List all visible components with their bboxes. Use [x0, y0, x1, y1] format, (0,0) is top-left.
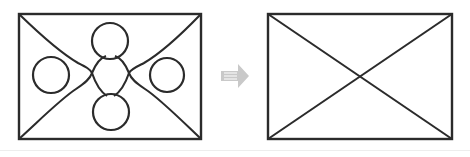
left-circle: [33, 57, 69, 93]
left-panel-rectangle: [19, 14, 201, 139]
left-panel: [19, 14, 201, 139]
bottom-circle: [93, 94, 129, 130]
right-arrow-icon: [221, 64, 249, 88]
right-circle: [150, 58, 184, 92]
bottom-inner-connector: [92, 73, 107, 96]
right-panel: [268, 14, 452, 139]
left-curved-diagonal: [20, 15, 92, 138]
figure-container: [0, 0, 470, 157]
right-curved-diagonal: [129, 15, 200, 138]
figure-illustration: [0, 0, 470, 157]
top-circle: [92, 23, 128, 59]
bottom-inner-connector-mirror: [114, 73, 129, 96]
